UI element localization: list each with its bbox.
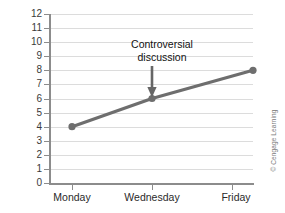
chart-figure: Number of students making comments or as… [0,0,285,213]
data-series-layer [0,0,285,213]
annotation-arrow-icon [147,66,156,98]
annotation-line-2: discussion [106,51,218,64]
annotation-controversial-discussion: Controversial discussion [106,38,218,64]
data-point-monday [68,123,75,130]
series-line [72,70,253,126]
data-point-friday [249,67,256,74]
annotation-line-1: Controversial [106,38,218,51]
copyright-credit: © Cengage Learning [270,92,277,172]
